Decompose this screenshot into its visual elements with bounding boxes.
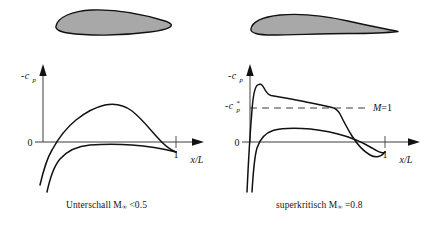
svg-text:-c: -c <box>21 70 30 81</box>
y-axis-label-supercritical: -c p <box>228 70 244 84</box>
svg-text:p: p <box>32 76 37 84</box>
sonic-line-label: M=1 <box>372 102 392 113</box>
conventional-subsonic-airfoil <box>56 10 172 35</box>
caption-supercritical-main: superkritisch M <box>276 200 337 210</box>
x-tick-label-supercritical: 1 <box>383 149 388 160</box>
panel-supercritical: -c p -c p * M=1 0 1 x/L <box>225 14 420 192</box>
upper-surface-cp-curve-supercritical <box>247 84 385 192</box>
pressure-distribution-figure: -c p 0 1 x/L -c p <box>0 0 446 233</box>
origin-label-subsonic: 0 <box>28 137 33 148</box>
caption-supercritical: superkritisch M∞ =0.8 <box>276 200 363 211</box>
x-axis-label-subsonic: x/L <box>190 154 204 165</box>
x-axis-arrowhead-supercritical <box>408 138 420 146</box>
lower-surface-cp-curve-supercritical <box>252 128 385 192</box>
svg-text:p: p <box>236 106 241 114</box>
svg-text:-c: -c <box>225 100 234 111</box>
svg-text:-c: -c <box>228 70 237 81</box>
svg-text:p: p <box>239 76 244 84</box>
y-axis-label-subsonic: -c p <box>21 70 37 84</box>
y-axis-arrowhead-subsonic <box>39 64 46 76</box>
caption-subsonic: Unterschall M∞ <0.5 <box>66 200 147 211</box>
y-axis-arrowhead-supercritical <box>246 64 253 76</box>
caption-subsonic-main: Unterschall M <box>66 200 122 210</box>
svg-text:*: * <box>237 99 241 107</box>
caption-supercritical-tail: =0.8 <box>342 200 362 210</box>
supercritical-airfoil <box>251 14 398 35</box>
x-axis-arrowhead-subsonic <box>192 138 204 146</box>
x-tick-label-subsonic: 1 <box>174 149 179 160</box>
critical-cp-label: -c p * <box>225 99 241 114</box>
caption-subsonic-tail: <0.5 <box>127 200 147 210</box>
panel-subsonic: -c p 0 1 x/L <box>21 10 204 192</box>
x-axis-label-supercritical: x/L <box>399 154 413 165</box>
lower-surface-cp-curve-subsonic <box>47 144 176 192</box>
origin-label-supercritical: 0 <box>235 137 240 148</box>
